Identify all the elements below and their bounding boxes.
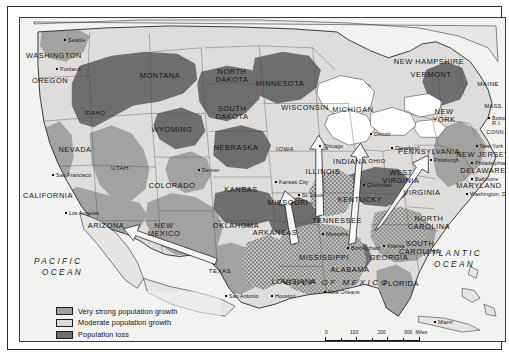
city-dot: [466, 193, 469, 196]
legend-item-moderate-growth: Moderate population growth: [56, 318, 177, 329]
legend-label-very-strong-growth: Very strong population growth: [78, 307, 177, 316]
city-dot: [347, 247, 350, 250]
caribbean-islands: [418, 266, 496, 332]
city-dot: [434, 321, 437, 324]
map-panel: PACIFIC OCEAN ATLANTIC OCEAN GULF OF MEX…: [19, 17, 506, 342]
legend-label-moderate-growth: Moderate population growth: [78, 318, 171, 327]
city-dot: [52, 174, 55, 177]
city-dot: [65, 212, 68, 215]
legend-item-very-strong-growth: Very strong population growth: [56, 306, 177, 317]
city-dot: [430, 159, 433, 162]
city-dot: [56, 68, 59, 71]
legend-swatch-moderate-growth: [56, 319, 73, 327]
map-figure: PACIFIC OCEAN ATLANTIC OCEAN GULF OF MEX…: [0, 0, 509, 357]
city-dot: [471, 162, 474, 165]
map-legend: Very strong population growth Moderate p…: [56, 306, 177, 342]
city-dot: [471, 178, 474, 181]
legend-swatch-population-loss: [56, 331, 73, 339]
city-dot: [319, 145, 322, 148]
legend-swatch-very-strong-growth: [56, 307, 73, 315]
city-dot: [476, 145, 479, 148]
city-dot: [271, 295, 274, 298]
scale-miles-labels: 0 100 200 300 Miles: [325, 330, 427, 336]
legend-label-population-loss: Population loss: [78, 330, 129, 339]
city-dot: [225, 295, 228, 298]
legend-item-african-american-migration: African-American migration: [56, 341, 177, 342]
city-dot: [370, 133, 373, 136]
city-dot: [198, 169, 201, 172]
city-dot: [275, 181, 278, 184]
legend-item-population-loss: Population loss: [56, 329, 177, 340]
map-graphics: [20, 18, 505, 341]
figure-frame: PACIFIC OCEAN ATLANTIC OCEAN GULF OF MEX…: [7, 6, 502, 350]
scale-ruler: [325, 337, 420, 343]
city-dot: [322, 233, 325, 236]
scale-bar: 0 100 200 300 Miles 0 100 200 300 Kilome…: [325, 330, 427, 342]
city-dot: [383, 245, 386, 248]
city-dot: [324, 291, 327, 294]
city-dot: [363, 184, 366, 187]
city-dot: [298, 194, 301, 197]
city-dot: [64, 39, 67, 42]
city-dot: [488, 117, 491, 120]
city-dot: [391, 147, 394, 150]
